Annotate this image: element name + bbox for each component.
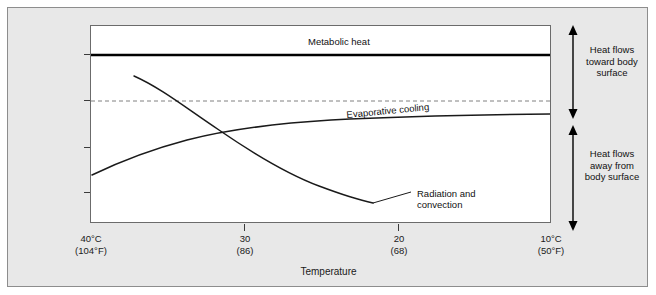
- curve-evaporative-cooling: [92, 114, 550, 175]
- x-tick-label-30: 30 (86): [200, 233, 290, 256]
- x-tick-mark-30: [244, 224, 245, 231]
- x-tick-label-40c: 40°C (104°F): [46, 233, 136, 256]
- arrow-head-down-away: [569, 221, 578, 231]
- x-tick-mark-20: [398, 224, 399, 231]
- x-axis-title: Temperature: [8, 266, 649, 277]
- x-tick-label-20: 20 (68): [354, 233, 444, 256]
- radiation-label-leader-line: [373, 192, 411, 203]
- curve-radiation-convection: [134, 76, 373, 203]
- x-tick-label-10c: 10°C (50°F): [506, 233, 596, 256]
- figure-panel: Heat flow (kilogram-calories per square …: [7, 7, 648, 287]
- annotation-heat-flows-away: Heat flows away from body surface: [572, 148, 652, 183]
- arrow-head-up-away: [569, 125, 578, 135]
- curve-label-metabolic-heat: Metabolic heat: [308, 36, 370, 47]
- curve-label-radiation-convection: Radiation and convection: [417, 188, 476, 210]
- arrow-head-up-toward: [569, 25, 578, 35]
- arrow-head-down-toward: [569, 109, 578, 119]
- chart-curves: [91, 26, 550, 222]
- plot-area: [90, 25, 551, 223]
- annotation-heat-flows-toward: Heat flows toward body surface: [572, 44, 652, 79]
